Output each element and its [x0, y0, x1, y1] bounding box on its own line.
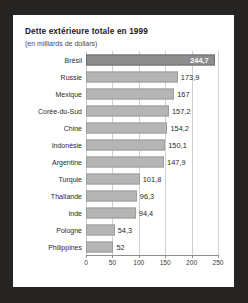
x-tick-label-200: 200	[186, 259, 197, 266]
bar-row: Corée-du-Sud157,2	[13, 102, 234, 119]
category-label: Brésil	[64, 56, 82, 63]
category-label: Thaïlande	[51, 192, 82, 199]
bar	[86, 156, 164, 167]
bar-row: Indonésie150,1	[13, 136, 234, 153]
chart-title: Dette extérieure totale en 1999	[25, 27, 148, 36]
bar	[86, 88, 174, 99]
bar-value-label: 167	[177, 89, 189, 98]
x-tick-100	[139, 255, 140, 258]
bar-value-label: 52	[116, 242, 124, 251]
bar-value-label: 150,1	[168, 140, 187, 149]
x-tick-200	[192, 255, 193, 258]
bar-row: Thaïlande96,3	[13, 187, 234, 204]
chart-plot-area: Brésil244,7Russie173,9Mexique167Corée-du…	[13, 51, 234, 279]
bar	[86, 190, 137, 201]
bar	[86, 224, 115, 235]
chart-card: Dette extérieure totale en 1999 (en mill…	[13, 15, 234, 287]
bar	[86, 139, 165, 150]
bar-value-label: 96,3	[140, 191, 154, 200]
bar-value-label: 244,7	[190, 55, 209, 64]
x-tick-label-150: 150	[160, 259, 171, 266]
category-label: Argentine	[52, 158, 82, 165]
bar-value-label: 154,2	[170, 123, 189, 132]
x-tick-0	[86, 255, 87, 258]
screenshot-root: Dette extérieure totale en 1999 (en mill…	[0, 0, 248, 303]
category-label: Pologne	[56, 226, 82, 233]
bar-value-label: 101,8	[143, 174, 162, 183]
x-tick-label-100: 100	[133, 259, 144, 266]
category-label: Indonésie	[52, 141, 82, 148]
category-label: Mexique	[56, 90, 82, 97]
category-label: Chine	[64, 124, 82, 131]
bar-rows: Brésil244,7Russie173,9Mexique167Corée-du…	[13, 51, 234, 255]
bar	[86, 71, 178, 82]
x-tick-label-50: 50	[109, 259, 116, 266]
x-tick-50	[112, 255, 113, 258]
x-axis-line	[86, 255, 219, 256]
bar-row: Argentine147,9	[13, 153, 234, 170]
bar-row: Mexique167	[13, 85, 234, 102]
bar-row: Philippines52	[13, 238, 234, 255]
category-label: Philippines	[48, 243, 82, 250]
bar-value-label: 173,9	[181, 72, 200, 81]
bar	[86, 173, 140, 184]
category-label: Russie	[61, 73, 82, 80]
bar-value-label: 94,4	[139, 208, 153, 217]
bar-row: Russie173,9	[13, 68, 234, 85]
bar	[86, 207, 136, 218]
category-label: Inde	[68, 209, 82, 216]
bar-value-label: 54,3	[118, 225, 132, 234]
bar-row: Chine154,2	[13, 119, 234, 136]
bar-row: Pologne54,3	[13, 221, 234, 238]
chart-subtitle: (en milliards de dollars)	[25, 40, 97, 47]
bar	[86, 241, 113, 252]
bar-value-label: 157,2	[172, 106, 191, 115]
bar-row: Brésil244,7	[13, 51, 234, 68]
bar-row: Turquie101,8	[13, 170, 234, 187]
category-label: Turquie	[59, 175, 82, 182]
bar	[86, 122, 167, 133]
bar	[86, 105, 169, 116]
category-label: Corée-du-Sud	[38, 107, 82, 114]
x-tick-150	[165, 255, 166, 258]
x-tick-250	[218, 255, 219, 258]
x-tick-label-0: 0	[84, 259, 88, 266]
bar-row: Inde94,4	[13, 204, 234, 221]
bar-value-label: 147,9	[167, 157, 186, 166]
x-tick-label-250: 250	[212, 259, 223, 266]
